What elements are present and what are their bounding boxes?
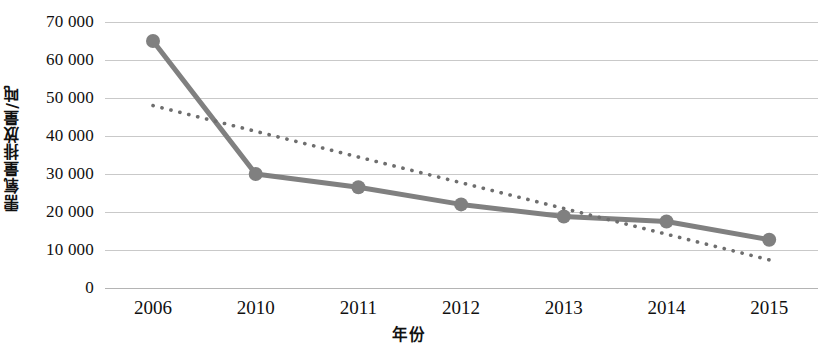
y-axis-tick-label: 20 000: [46, 202, 94, 222]
data-point-marker: [557, 210, 571, 224]
data-point-marker: [351, 180, 365, 194]
data-point-marker: [249, 167, 263, 181]
data-point-marker: [146, 34, 160, 48]
x-axis-tick-label: 2013: [545, 297, 583, 319]
x-axis-tick-label: 2006: [134, 297, 172, 319]
x-axis-tick-labels: 2006201020112012201320142015: [0, 295, 818, 325]
y-axis-tick-labels: 010 00020 00030 00040 00050 00060 00070 …: [26, 0, 100, 295]
y-axis-tick-label: 40 000: [46, 126, 94, 146]
y-axis-tick-label: 70 000: [46, 12, 94, 32]
plot-area: [105, 0, 818, 295]
y-axis-tick-label: 30 000: [46, 164, 94, 184]
y-axis-title-text: 需氧量排放量/吨: [2, 85, 24, 211]
x-axis-title-text: 年份: [392, 326, 426, 344]
y-axis-tick-label: 60 000: [46, 50, 94, 70]
x-axis-tick-label: 2010: [237, 297, 275, 319]
y-axis-title: 需氧量排放量/吨: [0, 0, 26, 295]
x-axis-tick-label: 2012: [442, 297, 480, 319]
x-axis-tick-label: 2014: [648, 297, 686, 319]
data-point-marker: [454, 197, 468, 211]
y-axis-tick-label: 50 000: [46, 88, 94, 108]
trendline: [153, 106, 775, 262]
y-axis-tick-label: 10 000: [46, 240, 94, 260]
x-axis-tick-label: 2015: [750, 297, 788, 319]
chart-container: 需氧量排放量/吨 010 00020 00030 00040 00050 000…: [0, 0, 818, 353]
x-axis-tick-label: 2011: [340, 297, 377, 319]
data-point-marker: [762, 233, 776, 247]
data-layer: [105, 0, 818, 295]
data-point-marker: [660, 215, 674, 229]
x-axis-title: 年份: [0, 322, 818, 344]
